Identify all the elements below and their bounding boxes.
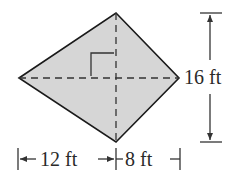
height-dimension: 16 ft — [184, 13, 222, 142]
right-width-label: 8 ft — [125, 148, 153, 170]
width-dimension: 12 ft 8 ft — [18, 148, 180, 170]
kite-diagram: 16 ft 12 ft 8 ft — [0, 0, 241, 180]
left-width-label: 12 ft — [40, 148, 78, 170]
height-label: 16 ft — [184, 66, 222, 88]
